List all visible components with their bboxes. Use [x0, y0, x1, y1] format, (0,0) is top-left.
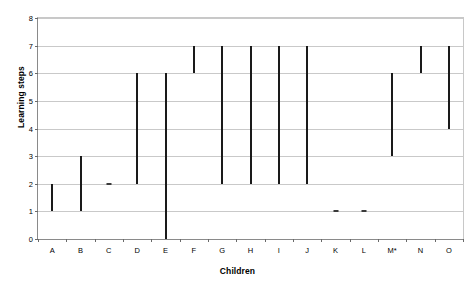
data-range-bar [278, 46, 280, 184]
y-tick-label: 4 [13, 124, 33, 133]
y-tick-mark [35, 101, 38, 102]
x-tick-label: C [94, 246, 124, 255]
x-tick-label: I [264, 246, 294, 255]
y-tick-mark [35, 211, 38, 212]
y-tick-mark [35, 46, 38, 47]
x-tick-mark [321, 239, 322, 242]
x-tick-label: L [349, 246, 379, 255]
x-tick-mark [180, 239, 181, 242]
data-range-bar [420, 46, 422, 74]
data-point-marker [333, 210, 338, 212]
x-tick-label: O [434, 246, 464, 255]
x-tick-label: A [37, 246, 67, 255]
gridline [38, 211, 463, 212]
x-tick-label: F [179, 246, 209, 255]
y-tick-label: 1 [13, 207, 33, 216]
y-tick-mark [35, 129, 38, 130]
chart-container: Learning steps 012345678 ABCDEFGHIJKLM*N… [0, 0, 475, 285]
x-tick-label: G [207, 246, 237, 255]
data-range-bar [51, 184, 53, 212]
data-range-bar [80, 156, 82, 211]
x-tick-label: H [236, 246, 266, 255]
x-tick-mark [378, 239, 379, 242]
x-tick-label: N [406, 246, 436, 255]
data-range-bar [250, 46, 252, 184]
data-range-bar [306, 46, 308, 184]
x-tick-label: D [122, 246, 152, 255]
data-point-marker [361, 210, 366, 212]
x-tick-label: E [151, 246, 181, 255]
data-range-bar [165, 73, 167, 239]
plot-area: 012345678 ABCDEFGHIJKLM*NO [37, 17, 464, 240]
x-tick-mark [151, 239, 152, 242]
x-tick-mark [95, 239, 96, 242]
x-tick-mark [208, 239, 209, 242]
y-tick-label: 5 [13, 96, 33, 105]
y-tick-mark [35, 184, 38, 185]
x-tick-mark [123, 239, 124, 242]
gridline [38, 18, 463, 19]
data-point-marker [106, 183, 111, 185]
x-tick-mark [435, 239, 436, 242]
y-tick-mark [35, 156, 38, 157]
y-tick-label: 3 [13, 152, 33, 161]
x-tick-mark [463, 239, 464, 242]
y-tick-mark [35, 18, 38, 19]
x-tick-mark [236, 239, 237, 242]
data-range-bar [221, 46, 223, 184]
x-tick-label: B [66, 246, 96, 255]
x-tick-label: K [321, 246, 351, 255]
x-tick-mark [293, 239, 294, 242]
y-tick-mark [35, 73, 38, 74]
y-tick-label: 6 [13, 69, 33, 78]
y-tick-label: 0 [13, 235, 33, 244]
x-tick-mark [38, 239, 39, 242]
gridline [38, 184, 463, 185]
data-range-bar [391, 73, 393, 156]
x-tick-mark [66, 239, 67, 242]
x-tick-mark [406, 239, 407, 242]
gridline [38, 239, 463, 240]
y-tick-label: 7 [13, 41, 33, 50]
data-range-bar [136, 73, 138, 184]
x-axis-title: Children [0, 266, 475, 276]
x-tick-mark [265, 239, 266, 242]
x-tick-label: M* [377, 246, 407, 255]
y-tick-label: 2 [13, 179, 33, 188]
x-tick-mark [350, 239, 351, 242]
x-tick-label: J [292, 246, 322, 255]
data-range-bar [448, 46, 450, 129]
data-range-bar [193, 46, 195, 74]
y-tick-label: 8 [13, 14, 33, 23]
